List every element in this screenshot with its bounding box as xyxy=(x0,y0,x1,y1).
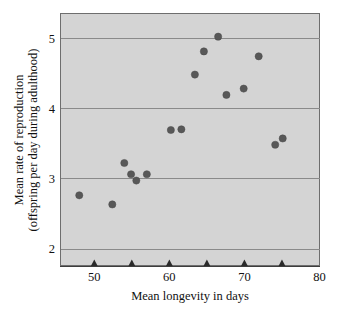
x-tick-label-80: 80 xyxy=(313,270,326,284)
data-point-15 xyxy=(279,135,286,142)
y-tick-label-3: 3 xyxy=(49,172,55,186)
data-point-1 xyxy=(109,201,116,208)
y-tick-label-4: 4 xyxy=(49,102,56,116)
x-tick-label-50: 50 xyxy=(88,270,101,284)
data-point-13 xyxy=(255,53,262,60)
data-point-0 xyxy=(76,192,83,199)
y-axis-title-line1: Mean rate of reproduction xyxy=(12,74,26,206)
data-point-7 xyxy=(178,126,185,133)
scatter-chart: 50607080 2345 Mean longevity in days Mea… xyxy=(0,0,346,315)
y-axis-title-line2: (offspring per day during adulthood) xyxy=(26,48,40,231)
y-tick-label-5: 5 xyxy=(49,32,55,46)
data-point-6 xyxy=(167,126,174,133)
data-point-12 xyxy=(240,85,247,92)
x-tick-label-70: 70 xyxy=(238,270,251,284)
data-point-5 xyxy=(143,171,150,178)
x-tick-label-60: 60 xyxy=(163,270,176,284)
y-tick-label-2: 2 xyxy=(49,242,55,256)
data-point-9 xyxy=(200,48,207,55)
data-point-14 xyxy=(272,141,279,148)
data-point-11 xyxy=(223,91,230,98)
x-axis-tick-labels-group: 50607080 xyxy=(88,270,326,284)
x-axis-title: Mean longevity in days xyxy=(131,289,249,303)
data-point-2 xyxy=(121,159,128,166)
data-point-8 xyxy=(191,71,198,78)
data-point-10 xyxy=(215,33,222,40)
data-point-4 xyxy=(133,177,140,184)
data-point-3 xyxy=(127,171,134,178)
figure-container: 50607080 2345 Mean longevity in days Mea… xyxy=(0,0,346,315)
y-axis-tick-labels-group: 2345 xyxy=(49,32,56,257)
